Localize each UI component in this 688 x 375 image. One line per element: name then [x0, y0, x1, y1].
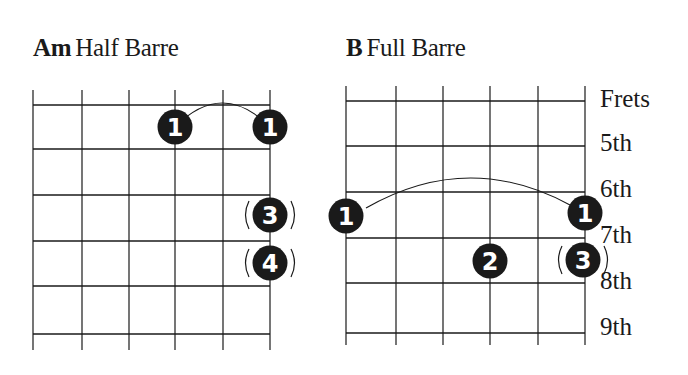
finger-dot-3: 3 [246, 198, 295, 233]
finger-number: 1 [167, 114, 184, 142]
chord-diagrams: 11341123 [0, 0, 688, 375]
finger-dot-1: 1 [158, 110, 193, 145]
finger-dot-2: 2 [473, 244, 508, 279]
fret-label: 8th [600, 268, 632, 293]
finger-number: 1 [338, 203, 355, 231]
fret-label: Frets [600, 86, 650, 111]
finger-dot-1: 1 [253, 110, 288, 145]
chord-diagram-b: 1123 [329, 86, 608, 345]
fret-label: 7th [600, 222, 632, 247]
finger-number: 1 [577, 200, 594, 228]
optional-paren-right [291, 201, 295, 229]
finger-number: 3 [262, 202, 279, 230]
optional-paren-left [246, 249, 250, 277]
finger-number: 2 [482, 248, 499, 276]
fret-label: 5th [600, 130, 632, 155]
optional-paren-left [559, 246, 563, 274]
fret-label: 6th [600, 176, 632, 201]
finger-dot-4: 4 [246, 246, 295, 281]
chord-diagram-am: 1134 [33, 90, 295, 350]
finger-number: 3 [575, 247, 592, 275]
finger-dot-1: 1 [568, 196, 603, 231]
finger-number: 4 [262, 250, 279, 278]
finger-number: 1 [262, 114, 279, 142]
optional-paren-left [246, 201, 250, 229]
optional-paren-right [291, 249, 295, 277]
fret-label: 9th [600, 314, 632, 339]
finger-dot-1: 1 [329, 199, 364, 234]
